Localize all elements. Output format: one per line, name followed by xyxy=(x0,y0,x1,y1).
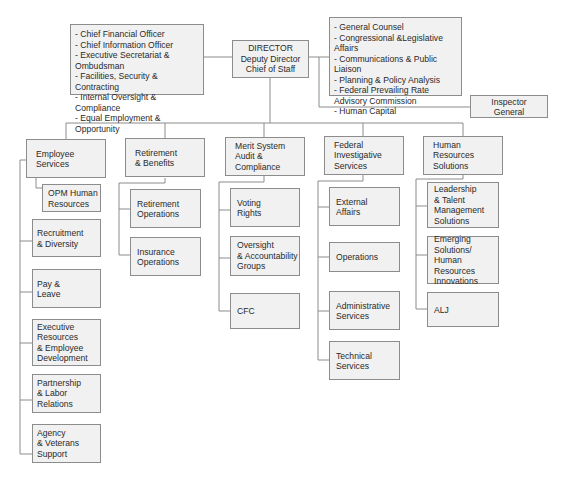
staff-offices-right-list: - General Counsel - Congressional &Legis… xyxy=(330,18,461,117)
unit-recruitment-diversity[interactable]: Recruitment & Diversity xyxy=(32,219,101,257)
division-label: Human Resources Solutions xyxy=(424,140,502,172)
unit-label: Administrative Services xyxy=(330,300,390,321)
unit-partnership-labor[interactable]: Partnership & Labor Relations xyxy=(32,374,101,413)
unit-label: External Affairs xyxy=(330,196,368,217)
division-federal-investigative[interactable]: Federal Investigative Services xyxy=(324,136,404,175)
unit-opm-human-resources[interactable]: OPM Human Resources xyxy=(42,184,101,212)
staff-offices-left: - Chief Financial Officer - Chief Inform… xyxy=(70,24,204,95)
staff-offices-left-list: - Chief Financial Officer - Chief Inform… xyxy=(71,25,203,134)
unit-emerging-solutions[interactable]: Emerging Solutions/ Human Resources Inno… xyxy=(427,236,499,284)
division-merit-system[interactable]: Merit System Audit & Compliance xyxy=(225,137,305,176)
division-label: Federal Investigative Services xyxy=(325,140,382,172)
unit-label: Executive Resources & Employee Developme… xyxy=(33,322,88,364)
inspector-general-label: Inspector General xyxy=(471,96,547,117)
unit-technical-services[interactable]: Technical Services xyxy=(329,341,400,380)
unit-oversight-accountability[interactable]: Oversight & Accountability Groups xyxy=(230,236,300,276)
unit-external-affairs[interactable]: External Affairs xyxy=(329,187,400,226)
division-label: Employee Services xyxy=(27,148,74,169)
unit-label: Operations xyxy=(330,252,378,263)
unit-leadership-talent[interactable]: Leadership & Talent Management Solutions xyxy=(427,182,499,228)
unit-label: Oversight & Accountability Groups xyxy=(231,240,298,272)
unit-label: ALJ xyxy=(428,304,449,315)
unit-voting-rights[interactable]: Voting Rights xyxy=(230,188,300,227)
division-retirement-benefits[interactable]: Retirement & Benefits xyxy=(125,138,205,177)
unit-label: OPM Human Resources xyxy=(43,188,98,209)
unit-label: Pay & Leave xyxy=(33,278,60,299)
unit-label: Technical Services xyxy=(330,350,372,371)
unit-pay-leave[interactable]: Pay & Leave xyxy=(32,269,101,308)
unit-label: Recruitment & Diversity xyxy=(33,228,83,249)
unit-label: Voting Rights xyxy=(231,197,261,218)
unit-executive-resources[interactable]: Executive Resources & Employee Developme… xyxy=(32,319,101,366)
inspector-general-box[interactable]: Inspector General xyxy=(470,95,548,118)
division-label: Retirement & Benefits xyxy=(126,147,177,168)
unit-label: Leadership & Talent Management Solutions xyxy=(428,184,484,226)
unit-insurance-operations[interactable]: Insurance Operations xyxy=(130,237,201,276)
unit-retirement-operations[interactable]: Retirement Operations xyxy=(130,189,201,228)
unit-agency-veterans[interactable]: Agency & Veterans Support xyxy=(32,424,101,463)
staff-offices-right: - General Counsel - Congressional &Legis… xyxy=(329,17,462,96)
unit-label: Emerging Solutions/ Human Resources Inno… xyxy=(428,234,498,287)
unit-label: Retirement Operations xyxy=(131,198,179,219)
unit-label: Insurance Operations xyxy=(131,246,179,267)
division-label: Merit System Audit & Compliance xyxy=(226,141,304,173)
unit-alj[interactable]: ALJ xyxy=(427,292,499,327)
division-employee-services[interactable]: Employee Services xyxy=(26,139,106,178)
unit-label: CFC xyxy=(231,306,255,317)
division-hr-solutions[interactable]: Human Resources Solutions xyxy=(423,136,503,175)
unit-label: Agency & Veterans Support xyxy=(33,428,79,460)
unit-administrative-services[interactable]: Administrative Services xyxy=(329,291,400,330)
director-label: DIRECTOR Deputy Director Chief of Staff xyxy=(233,43,308,75)
unit-label: Partnership & Labor Relations xyxy=(33,378,81,410)
unit-operations[interactable]: Operations xyxy=(329,242,400,272)
director-box[interactable]: DIRECTOR Deputy Director Chief of Staff xyxy=(232,40,309,78)
unit-cfc[interactable]: CFC xyxy=(230,293,300,329)
